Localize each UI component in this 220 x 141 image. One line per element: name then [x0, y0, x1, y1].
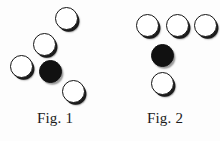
figure-caption-2: Fig. 2 — [110, 108, 220, 128]
fig2-node-middle — [151, 44, 174, 67]
figure-caption-1: Fig. 1 — [0, 108, 110, 128]
figure-panel-2: Fig. 2 — [110, 0, 220, 141]
fig1-node-left — [10, 55, 33, 78]
fig2-node-top-centre — [166, 14, 189, 37]
fig1-node-lower-right — [62, 80, 85, 103]
fig1-node-centre — [39, 60, 62, 83]
fig2-node-top-right — [194, 14, 217, 37]
fig2-node-top-left — [136, 14, 159, 37]
fig1-node-top-right — [55, 7, 78, 30]
fig2-node-bottom — [151, 72, 174, 95]
figure-panel-1: Fig. 1 — [0, 0, 110, 141]
node-field-fig-2 — [110, 0, 220, 108]
fig1-node-upper-middle — [33, 33, 56, 56]
figure-sheet: Fig. 1 Fig. 2 — [0, 0, 220, 141]
node-field-fig-1 — [0, 0, 110, 108]
